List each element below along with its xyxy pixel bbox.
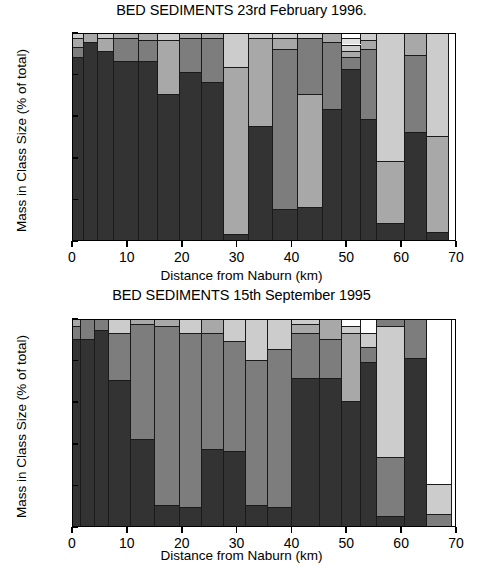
x-tick-mark	[400, 241, 402, 247]
x-tick-mark	[455, 527, 457, 533]
x-tick-label: 0	[57, 250, 87, 264]
x-tick-mark	[291, 241, 293, 247]
x-tick-label: 40	[276, 250, 306, 264]
y-axis-label-top: Mass in Class Size (% of total)	[14, 49, 29, 232]
x-axis-label-bottom: Distance from Naburn (km)	[0, 548, 483, 563]
x-tick-mark	[236, 527, 238, 533]
x-tick-mark	[236, 241, 238, 247]
x-tick-label: 30	[222, 250, 252, 264]
y-axis-label-bottom: Mass in Class Size (% of total)	[14, 335, 29, 518]
x-tick-label: 70	[441, 250, 471, 264]
x-tick-mark	[126, 241, 128, 247]
x-tick-mark	[181, 241, 183, 247]
chart-panel-bottom: BED SEDIMENTS 15th September 1995 020406…	[0, 286, 483, 568]
x-tick-mark	[126, 527, 128, 533]
x-tick-mark	[400, 527, 402, 533]
x-tick-mark	[455, 241, 457, 247]
x-tick-mark	[345, 527, 347, 533]
x-tick-label: 10	[112, 250, 142, 264]
x-axis-bottom: 010203040506070	[0, 286, 483, 568]
x-tick-mark	[71, 241, 73, 247]
x-tick-label: 50	[331, 250, 361, 264]
x-tick-label: 60	[386, 250, 416, 264]
x-tick-mark	[345, 241, 347, 247]
x-axis-label-top: Distance from Naburn (km)	[0, 268, 483, 283]
x-tick-mark	[291, 527, 293, 533]
x-tick-mark	[71, 527, 73, 533]
x-axis-top: 010203040506070	[0, 0, 483, 290]
chart-panel-top: BED SEDIMENTS 23rd February 1996. 020406…	[0, 0, 483, 290]
x-tick-label: 20	[167, 250, 197, 264]
x-tick-mark	[181, 527, 183, 533]
figure-page: BED SEDIMENTS 23rd February 1996. 020406…	[0, 0, 483, 568]
